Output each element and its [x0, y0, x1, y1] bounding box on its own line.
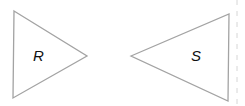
triangle-r-label: R — [33, 47, 44, 64]
triangle-s: S — [131, 14, 229, 101]
triangle-diagram: R S — [0, 0, 245, 106]
triangle-r-outline — [13, 11, 87, 98]
triangle-s-label: S — [191, 47, 201, 64]
triangle-s-outline — [131, 14, 229, 101]
triangle-r: R — [13, 11, 87, 98]
